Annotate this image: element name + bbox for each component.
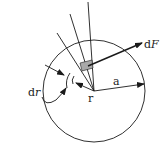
force-arrow xyxy=(88,43,142,66)
radial-line-2 xyxy=(70,14,94,91)
force-label: dF xyxy=(144,38,159,51)
dr-arrow-curve xyxy=(42,88,66,103)
inner-arc-mark xyxy=(72,76,74,84)
disk-diagram: dF a r dr xyxy=(0,0,167,147)
radial-line-1 xyxy=(88,2,94,91)
radius-a-label: a xyxy=(113,75,120,88)
thickness-label: dr xyxy=(28,86,41,99)
outer-arc-mark xyxy=(66,73,70,88)
shaded-element xyxy=(80,60,93,71)
radius-r-label: r xyxy=(88,92,94,105)
